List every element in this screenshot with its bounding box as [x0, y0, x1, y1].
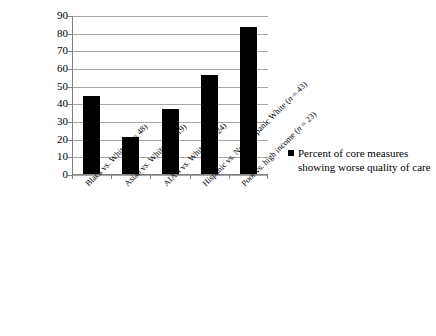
y-axis-tick-mark: [68, 16, 72, 17]
legend-item-label: Percent of core measures showing worse q…: [298, 146, 434, 174]
gridline: [72, 175, 268, 176]
y-axis-tick-mark: [68, 104, 72, 105]
y-axis-tick-label: 50: [46, 81, 68, 92]
y-axis-tick-label: 0: [46, 169, 68, 180]
bar: [240, 27, 257, 174]
y-axis-tick-label: 90: [46, 10, 68, 21]
legend-item: Percent of core measures showing worse q…: [288, 146, 434, 174]
y-axis-tick-mark: [68, 34, 72, 35]
y-axis-tick-label: 10: [46, 151, 68, 162]
gridline: [72, 87, 268, 88]
x-axis-tick-mark: [150, 175, 151, 179]
x-axis-tick-mark: [190, 175, 191, 179]
y-axis-tick-mark: [68, 87, 72, 88]
gridline: [72, 69, 268, 70]
y-axis-tick-label: 40: [46, 98, 68, 109]
x-axis-tick-mark: [72, 175, 73, 179]
bar: [201, 75, 218, 174]
y-axis-tick-label: 80: [46, 28, 68, 39]
y-axis-tick-labels: 0102030405060708090: [44, 16, 68, 175]
bar: [162, 109, 179, 174]
gridline: [72, 51, 268, 52]
y-axis-tick-label: 30: [46, 116, 68, 127]
gridline: [72, 104, 268, 105]
x-axis-tick-mark: [229, 175, 230, 179]
y-axis-tick-label: 60: [46, 63, 68, 74]
y-axis-tick-label: 70: [46, 45, 68, 56]
y-axis-tick-mark: [68, 69, 72, 70]
legend-color-swatch: [288, 150, 294, 156]
y-axis-tick-label: 20: [46, 134, 68, 145]
y-axis-tick-mark: [68, 51, 72, 52]
y-axis-tick-mark: [68, 140, 72, 141]
bar: [122, 137, 139, 174]
y-axis-tick-mark: [68, 175, 72, 176]
x-axis-tick-mark: [267, 175, 268, 179]
y-axis-line: [72, 16, 73, 175]
x-axis-line: [72, 174, 268, 175]
bar-chart-figure: 0102030405060708090 Black vs. White (n =…: [0, 0, 436, 336]
y-axis-tick-mark: [68, 157, 72, 158]
gridline: [72, 16, 268, 17]
x-axis-tick-mark: [111, 175, 112, 179]
y-axis-tick-mark: [68, 122, 72, 123]
chart-legend: Percent of core measures showing worse q…: [288, 146, 434, 174]
bar: [83, 96, 100, 174]
plot-area: [72, 16, 268, 175]
gridline: [72, 34, 268, 35]
